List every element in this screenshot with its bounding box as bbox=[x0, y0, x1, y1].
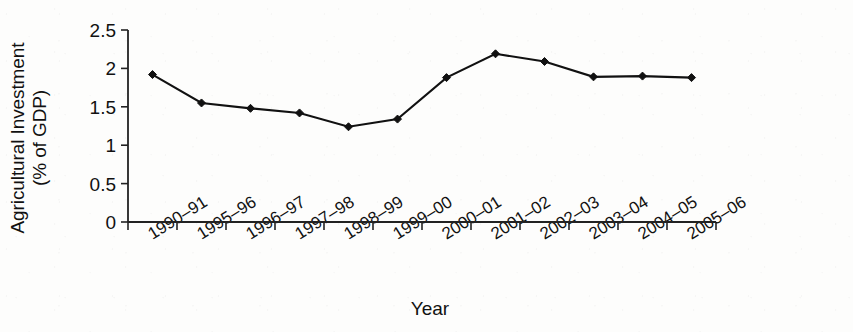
y-axis-tick-label: 0 bbox=[105, 212, 116, 233]
data-point-marker bbox=[541, 57, 549, 65]
y-axis-tick-label: 2.5 bbox=[90, 20, 116, 41]
data-point-marker bbox=[247, 104, 255, 112]
data-point-markers bbox=[149, 50, 696, 131]
y-axis-tick-marks bbox=[121, 30, 128, 222]
data-point-marker bbox=[639, 72, 647, 80]
chart-figure: Agricultural Investment (% of GDP) Year … bbox=[0, 0, 853, 332]
line-chart-plot: 00.511.522.5 1990–911995–961996–971997–9… bbox=[0, 0, 853, 332]
data-point-marker bbox=[590, 73, 598, 81]
y-axis-tick-labels: 00.511.522.5 bbox=[90, 20, 116, 233]
data-series-line bbox=[153, 54, 692, 127]
data-point-marker bbox=[688, 74, 696, 82]
y-axis-tick-label: 1 bbox=[105, 135, 116, 156]
y-axis-tick-label: 1.5 bbox=[90, 97, 116, 118]
y-axis-tick-label: 2 bbox=[105, 58, 116, 79]
data-point-marker bbox=[345, 123, 353, 131]
data-point-marker bbox=[296, 109, 304, 117]
x-axis-tick-labels: 1990–911995–961996–971997–981998–991999–… bbox=[145, 192, 750, 243]
data-point-marker bbox=[492, 50, 500, 58]
y-axis-tick-label: 0.5 bbox=[90, 174, 116, 195]
